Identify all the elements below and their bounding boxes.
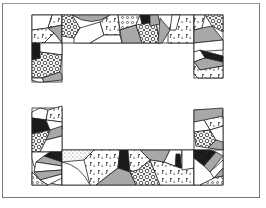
bottom-band-section [62, 150, 194, 185]
top-band-section [62, 15, 194, 43]
top-left-corner-section [32, 15, 62, 82]
top-right-corner-section [194, 15, 223, 78]
bottom-right-corner-section [194, 108, 223, 185]
quilt-border-diagram [0, 0, 266, 208]
bottom-left-corner-section [32, 106, 62, 185]
